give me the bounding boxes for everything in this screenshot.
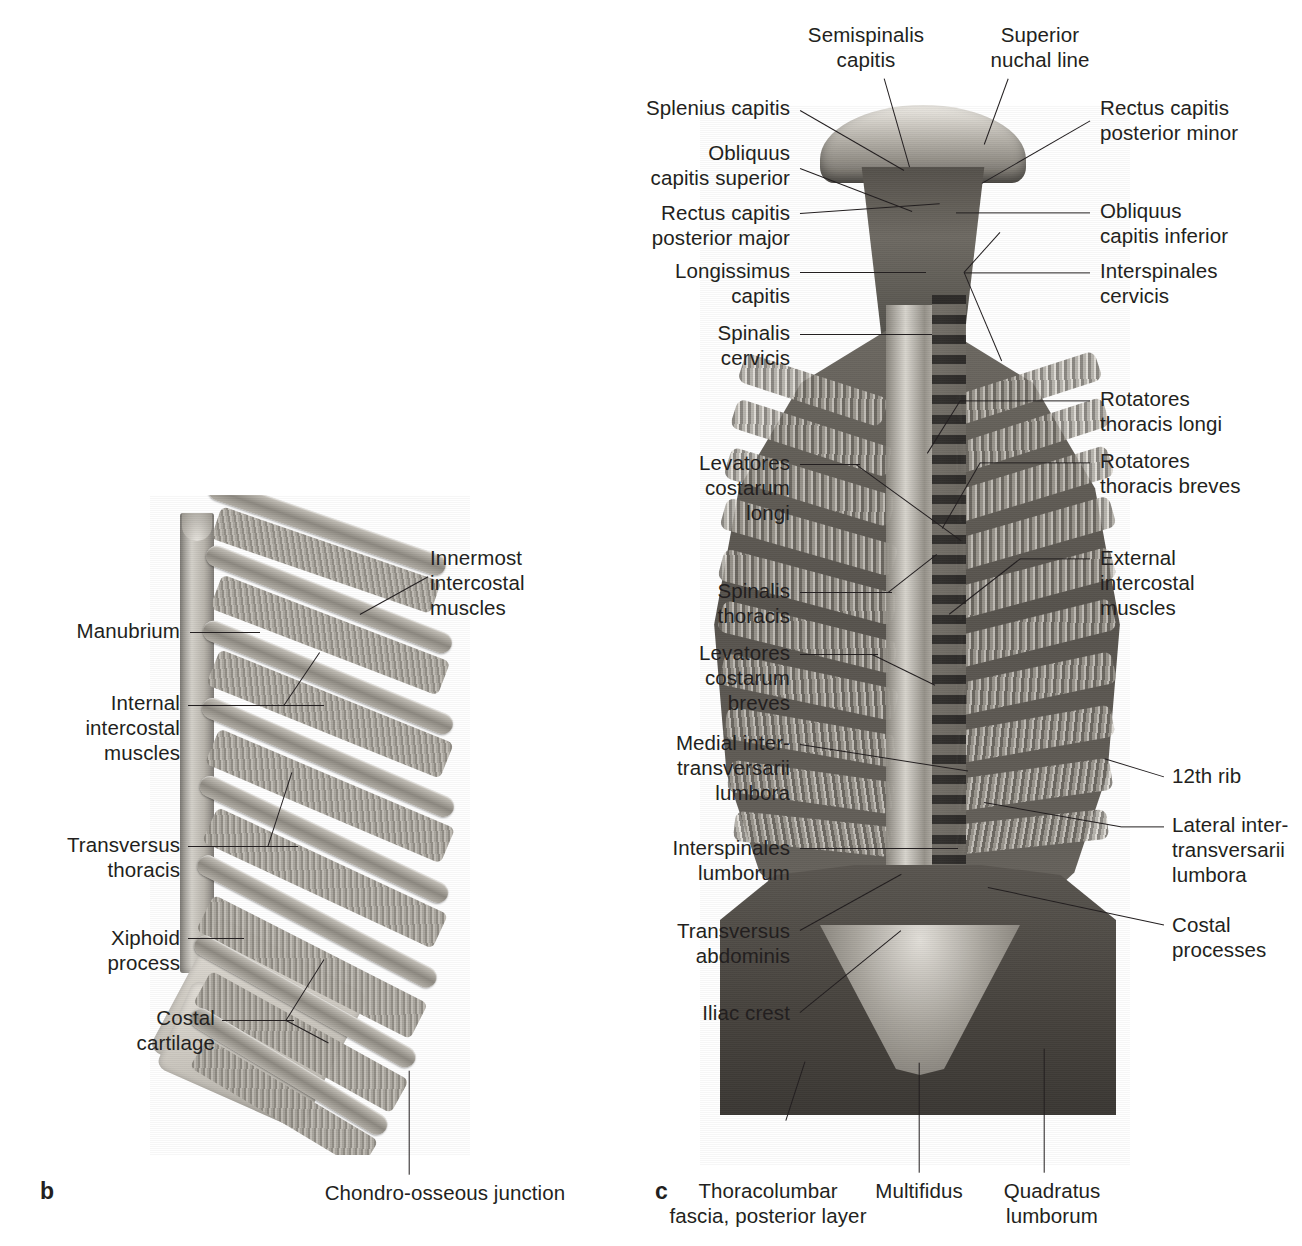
label-superior-nuchal-line: Superior nuchal line bbox=[960, 22, 1120, 72]
label-12th-rib: 12th rib bbox=[1172, 763, 1298, 788]
label-spinalis-cervicis: Spinalis cervicis bbox=[600, 320, 790, 370]
label-splenius-capitis: Splenius capitis bbox=[600, 95, 790, 120]
label-spinalis-thoracis: Spinalis thoracis bbox=[590, 578, 790, 628]
label-interspinales-cervicis: Interspinales cervicis bbox=[1100, 258, 1296, 308]
label-transversus-abdominis: Transversus abdominis bbox=[586, 918, 790, 968]
label-interspinales-lumborum: Interspinales lumborum bbox=[586, 835, 790, 885]
label-costal-processes: Costal processes bbox=[1172, 912, 1298, 962]
label-xiphoid-process: Xiphoid process bbox=[5, 925, 180, 975]
label-levatores-costarum-longi: Levatores costarum longi bbox=[590, 450, 790, 525]
panel-letter-b: b bbox=[40, 1178, 54, 1205]
label-quadratus-lumborum: Quadratus lumborum bbox=[982, 1178, 1122, 1228]
figure-b-thoracic-wall bbox=[150, 495, 470, 1155]
label-obliquus-capitis-inferior: Obliquus capitis inferior bbox=[1100, 198, 1296, 248]
label-rectus-capitis-posterior-minor: Rectus capitis posterior minor bbox=[1100, 95, 1296, 145]
label-medial-intertransversarii-lumbora: Medial inter- transversarii lumbora bbox=[586, 730, 790, 805]
label-thoracolumbar-fascia: Thoracolumbar fascia, posterior layer bbox=[648, 1178, 888, 1228]
clipped-caption bbox=[60, 1234, 1260, 1246]
label-semispinalis-capitis: Semispinalis capitis bbox=[786, 22, 946, 72]
label-chondro-osseous-junction: Chondro-osseous junction bbox=[295, 1180, 595, 1205]
label-multifidus: Multifidus bbox=[858, 1178, 980, 1203]
label-internal-intercostal-muscles: Internal intercostal muscles bbox=[5, 690, 180, 765]
label-external-intercostal-muscles: External intercostal muscles bbox=[1100, 545, 1296, 620]
label-longissimus-capitis: Longissimus capitis bbox=[600, 258, 790, 308]
atlas-plate: Manubrium Innermost intercostal muscles … bbox=[0, 0, 1302, 1246]
label-manubrium: Manubrium bbox=[10, 618, 180, 643]
label-iliac-crest: Iliac crest bbox=[586, 1000, 790, 1025]
label-levatores-costarum-breves: Levatores costarum breves bbox=[590, 640, 790, 715]
label-transversus-thoracis: Transversus thoracis bbox=[5, 832, 180, 882]
label-rotatores-thoracis-longi: Rotatores thoracis longi bbox=[1100, 386, 1296, 436]
label-rotatores-thoracis-breves: Rotatores thoracis breves bbox=[1100, 448, 1296, 498]
label-lateral-intertransversarii-lumbora: Lateral inter- transversarii lumbora bbox=[1172, 812, 1302, 887]
label-costal-cartilage: Costal cartilage bbox=[60, 1005, 215, 1055]
label-rectus-capitis-posterior-major: Rectus capitis posterior major bbox=[590, 200, 790, 250]
panel-letter-c: c bbox=[655, 1178, 668, 1205]
label-obliquus-capitis-superior: Obliquus capitis superior bbox=[590, 140, 790, 190]
